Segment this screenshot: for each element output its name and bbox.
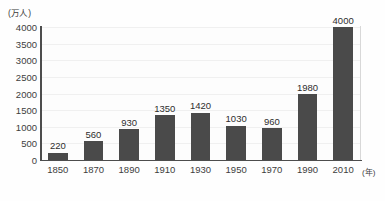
y-axis-tick-label: 2000 bbox=[3, 88, 37, 99]
bar-value-label: 930 bbox=[121, 117, 137, 128]
x-axis-tick-label: 1930 bbox=[190, 164, 211, 175]
bar-rect bbox=[191, 113, 211, 160]
y-axis-line bbox=[40, 26, 42, 161]
bar-rect bbox=[155, 115, 175, 160]
bar-value-label: 1030 bbox=[226, 113, 247, 124]
bar-item: 1420 bbox=[191, 27, 211, 160]
y-axis-tick-label: 1500 bbox=[3, 105, 37, 116]
bar-item: 1980 bbox=[298, 27, 318, 160]
bar-value-label: 1980 bbox=[297, 82, 318, 93]
y-axis-tick-label: 0 bbox=[3, 155, 37, 166]
bar-value-label: 560 bbox=[86, 129, 102, 140]
bar-item: 1350 bbox=[155, 27, 175, 160]
bar-value-label: 1350 bbox=[154, 103, 175, 114]
bar-rect bbox=[226, 126, 246, 160]
x-axis-tick-label: 1910 bbox=[154, 164, 175, 175]
y-axis-tick-label: 2500 bbox=[3, 71, 37, 82]
x-axis-tick-label: 1970 bbox=[261, 164, 282, 175]
x-axis-tick-label: 1870 bbox=[83, 164, 104, 175]
y-axis-tick-label: 500 bbox=[3, 138, 37, 149]
bar-item: 930 bbox=[119, 27, 139, 160]
bar-rect bbox=[48, 153, 68, 160]
bar-rect bbox=[262, 128, 282, 160]
y-axis-tick-labels: 05001000150020002500300035004000 bbox=[0, 0, 37, 201]
y-axis-tick-label: 4000 bbox=[3, 22, 37, 33]
bar-item: 960 bbox=[262, 27, 282, 160]
y-axis-tick-label: 3500 bbox=[3, 38, 37, 49]
bar-item: 4000 bbox=[333, 27, 353, 160]
y-axis-tick-label: 1000 bbox=[3, 121, 37, 132]
bar-rect bbox=[119, 129, 139, 160]
x-axis-tick-label: 1990 bbox=[297, 164, 318, 175]
bar-value-label: 4000 bbox=[333, 15, 354, 26]
x-axis-tick-label: 2010 bbox=[333, 164, 354, 175]
bar-rect bbox=[84, 141, 104, 160]
bar-value-label: 960 bbox=[264, 116, 280, 127]
bar-item: 1030 bbox=[226, 27, 246, 160]
bars: 22056093013501420103096019804000 bbox=[40, 27, 361, 160]
bar-chart: (万人) 05001000150020002500300035004000 22… bbox=[0, 0, 385, 201]
x-axis-tick-label: 1850 bbox=[47, 164, 68, 175]
bar-value-label: 220 bbox=[50, 140, 66, 151]
x-axis-unit-label: (年) bbox=[362, 166, 375, 177]
bar-rect bbox=[298, 94, 318, 160]
x-axis-tick-label: 1890 bbox=[119, 164, 140, 175]
bar-rect bbox=[333, 27, 353, 160]
bar-value-label: 1420 bbox=[190, 100, 211, 111]
bar-item: 560 bbox=[84, 27, 104, 160]
x-axis-tick-label: 1950 bbox=[226, 164, 247, 175]
plot-right-border bbox=[360, 26, 361, 161]
x-axis-line bbox=[40, 160, 362, 161]
plot-area: 22056093013501420103096019804000 bbox=[40, 27, 361, 160]
bar-item: 220 bbox=[48, 27, 68, 160]
x-axis-tick-labels: 185018701890191019301950197019902010 bbox=[40, 164, 361, 182]
y-axis-tick-label: 3000 bbox=[3, 55, 37, 66]
